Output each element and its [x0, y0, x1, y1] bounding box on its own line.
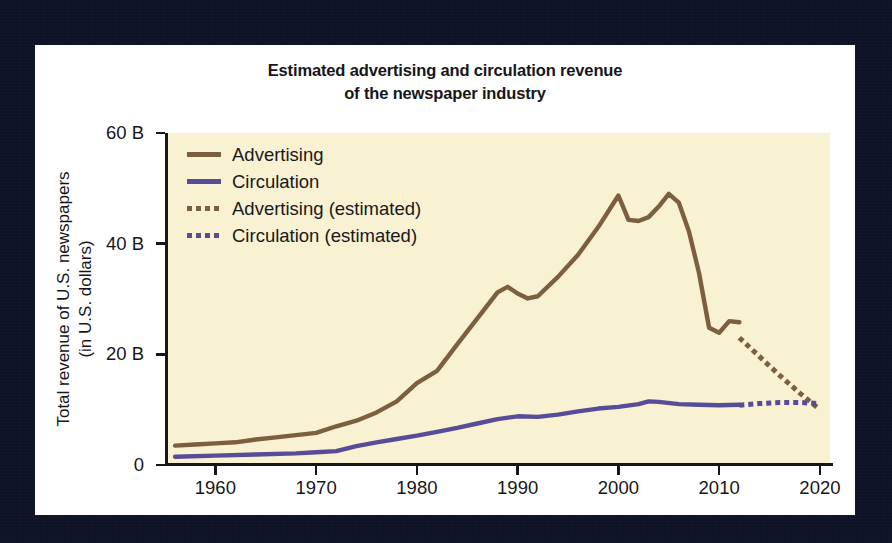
- y-tick-label: 40 B: [106, 233, 144, 255]
- legend-label: Circulation: [232, 171, 319, 193]
- x-tick-2010: [718, 465, 720, 475]
- y-axis-title-line-1: Total revenue of U.S. newspapers: [53, 133, 75, 465]
- chart-legend: AdvertisingCirculationAdvertising (estim…: [187, 141, 421, 249]
- x-tick-label: 2010: [699, 477, 740, 499]
- y-axis-title-line-2: (in U.S. dollars): [75, 133, 97, 465]
- x-tick-2020: [819, 465, 821, 475]
- x-tick-1990: [516, 465, 518, 475]
- x-tick-label: 1980: [396, 477, 437, 499]
- plot-area: 020 B40 B60 B 19601970198019902000201020…: [165, 133, 830, 465]
- x-tick-1980: [416, 465, 418, 475]
- x-axis-line: [165, 463, 833, 466]
- x-tick-label: 1990: [497, 477, 538, 499]
- y-tick-label: 0: [134, 454, 144, 476]
- legend-swatch-icon: [187, 206, 221, 211]
- chart-title: Estimated advertising and circulation re…: [35, 59, 855, 105]
- x-tick-2000: [617, 465, 619, 475]
- legend-swatch-icon: [187, 233, 221, 238]
- line-circulation: [175, 401, 739, 456]
- y-tick-label: 20 B: [106, 343, 144, 365]
- x-tick-label: 1960: [195, 477, 236, 499]
- legend-label: Advertising: [232, 144, 324, 166]
- y-tick-0: 0: [156, 464, 165, 466]
- legend-item-advertising-estimated[interactable]: Advertising (estimated): [187, 195, 421, 222]
- legend-swatch-icon: [187, 179, 221, 184]
- legend-label: Advertising (estimated): [232, 198, 421, 220]
- legend-item-circulation-estimated[interactable]: Circulation (estimated): [187, 222, 421, 249]
- legend-swatch-icon: [187, 152, 221, 157]
- y-axis-line: [165, 133, 168, 465]
- chart-title-line-2: of the newspaper industry: [35, 82, 855, 105]
- chart-title-line-1: Estimated advertising and circulation re…: [268, 61, 623, 79]
- legend-item-advertising[interactable]: Advertising: [187, 141, 421, 168]
- y-tick-label: 60 B: [106, 122, 144, 144]
- y-tick-40-B: 40 B: [156, 242, 165, 244]
- y-axis-title: Total revenue of U.S. newspapers (in U.S…: [53, 133, 79, 465]
- x-tick-label: 2000: [598, 477, 639, 499]
- legend-item-circulation[interactable]: Circulation: [187, 168, 421, 195]
- x-tick-label: 2020: [799, 477, 840, 499]
- line-advertising-estimated: [739, 338, 820, 410]
- legend-label: Circulation (estimated): [232, 225, 417, 247]
- x-tick-1970: [315, 465, 317, 475]
- x-tick-label: 1970: [296, 477, 337, 499]
- chart-card: Estimated advertising and circulation re…: [35, 45, 855, 515]
- x-tick-1960: [214, 465, 216, 475]
- y-tick-20-B: 20 B: [156, 353, 165, 355]
- y-tick-60-B: 60 B: [156, 132, 165, 134]
